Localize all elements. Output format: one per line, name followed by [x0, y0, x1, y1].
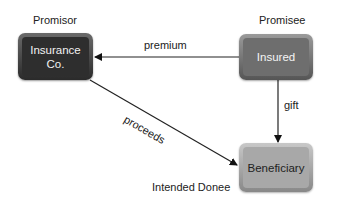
promisor-label: Promisor — [33, 14, 77, 26]
insurance-co-line1: Insurance — [30, 44, 81, 56]
beneficiary-label: Beneficiary — [248, 161, 305, 175]
intended-donee-label: Intended Donee — [152, 181, 230, 193]
beneficiary-node: Beneficiary — [239, 143, 313, 192]
insurance-co-line2: Co. — [47, 58, 65, 70]
insured-node: Insured — [239, 34, 313, 80]
insurance-co-node: InsuranceCo. — [18, 33, 93, 80]
insured-label: Insured — [257, 50, 295, 64]
gift-edge-label: gift — [284, 99, 299, 111]
premium-edge-label: premium — [144, 39, 187, 51]
promisee-label: Promisee — [259, 14, 305, 26]
proceeds-arrow — [90, 80, 237, 165]
